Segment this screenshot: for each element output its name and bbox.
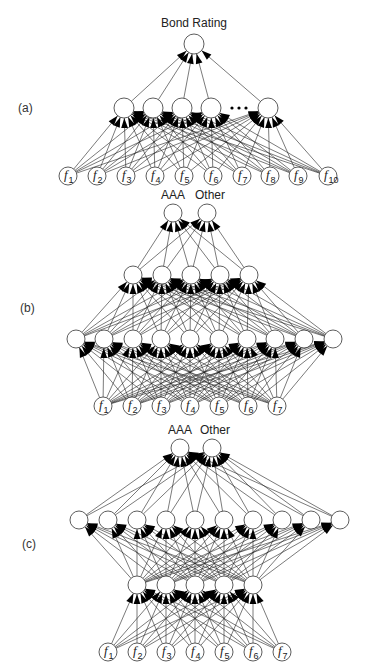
panel-label-b: (b)	[20, 301, 35, 315]
input-feature-subscript: 2	[138, 651, 143, 661]
panel-b-hidden-2-node-7	[238, 330, 256, 348]
arrowhead-icon	[250, 594, 257, 604]
panel-c-hidden-2-node-1	[128, 576, 146, 594]
panel-b-hidden-1-node-2	[153, 266, 171, 284]
arrowhead-icon	[155, 528, 162, 539]
panel-a-hidden-node-1	[114, 98, 134, 118]
ellipsis-dot	[237, 106, 240, 109]
input-feature-subscript: 6	[214, 175, 219, 185]
panel-c-hidden-1-node-6	[215, 511, 233, 529]
panel-c-hidden-1-node-10	[331, 511, 349, 529]
arrowhead-icon	[126, 593, 133, 604]
panel-c-hidden-1-node-5	[186, 511, 204, 529]
arrowheads	[79, 51, 332, 604]
connection-edge	[131, 51, 186, 102]
panel-b-output-node-1	[164, 204, 182, 222]
input-feature-subscript: 3	[127, 175, 132, 185]
input-feature-subscript: 6	[249, 405, 254, 415]
panel-b-hidden-1-node-5	[240, 266, 258, 284]
panel-c-output-node-2	[203, 439, 221, 457]
panel-c-hidden-1-node-8	[273, 511, 291, 529]
arrowhead-icon	[202, 51, 212, 60]
panel-b-hidden-2-node-1	[67, 330, 85, 348]
input-feature-subscript: 5	[220, 405, 225, 415]
panel-label-c: (c)	[22, 537, 36, 551]
ellipsis-dot	[230, 106, 233, 109]
panel-b-hidden-2-node-3	[124, 330, 142, 348]
connection-edge	[116, 589, 245, 648]
input-feature-subscript: 3	[167, 651, 172, 661]
panel-a-hidden-node-2	[143, 98, 163, 118]
input-feature-subscript: 9	[299, 175, 304, 185]
neural-network-diagram: f1f2f3f4f5f6f7f8f9f10Bond Rating(a)f1f2f…	[0, 0, 368, 670]
arrowhead-icon	[245, 284, 252, 294]
panel-c-hidden-1-node-4	[157, 511, 175, 529]
arrowhead-icon	[192, 529, 199, 539]
panel-b-hidden-2-node-9	[295, 330, 313, 348]
arrowhead-icon	[134, 594, 141, 604]
panel-c-hidden-1-node-1	[70, 511, 88, 529]
arrowhead-icon	[121, 118, 128, 128]
output-label: AAA	[168, 423, 192, 437]
arrowhead-icon	[192, 594, 199, 604]
arrowhead-icon	[228, 528, 235, 539]
connection-edge	[275, 115, 322, 169]
arrowhead-icon	[130, 284, 137, 294]
panel-c-hidden-2-node-3	[186, 576, 204, 594]
ellipsis-dot	[244, 106, 247, 109]
input-feature-subscript: 7	[283, 651, 288, 661]
arrowhead-icon	[212, 220, 220, 230]
panel-a-hidden-node-5	[258, 98, 278, 118]
input-feature-subscript: 5	[185, 175, 190, 185]
panel-c-hidden-1-node-9	[302, 511, 320, 529]
panel-a-hidden-node-3	[172, 98, 192, 118]
arrowhead-icon	[187, 348, 194, 358]
connection-edge	[143, 454, 205, 514]
panel-label-a: (a)	[18, 101, 33, 115]
arrowhead-icon	[265, 118, 272, 128]
panel-b-hidden-1-node-3	[182, 266, 200, 284]
input-feature-subscript: 4	[191, 405, 196, 415]
input-feature-subscript: 8	[271, 175, 276, 185]
arrowhead-icon	[257, 593, 264, 604]
input-feature-subscript: 2	[98, 175, 103, 185]
input-feature-subscript: 4	[196, 651, 201, 661]
arrowhead-icon	[221, 594, 228, 604]
panel-b-hidden-1-node-4	[211, 266, 229, 284]
panel-c-hidden-2-node-5	[244, 576, 262, 594]
panel-c-hidden-1-node-3	[128, 511, 146, 529]
panel-a-output-node-1	[184, 34, 204, 54]
panel-b-hidden-2-node-10	[324, 330, 342, 348]
input-feature-subscript: 7	[243, 175, 248, 185]
input-feature-subscript: 3	[162, 405, 167, 415]
output-label: Other	[195, 188, 225, 202]
arrowhead-icon	[196, 54, 203, 65]
connection-edge	[283, 346, 327, 399]
input-feature-subscript: 5	[225, 651, 230, 661]
arrowhead-icon	[187, 54, 194, 64]
panel-c-hidden-2-node-2	[157, 576, 175, 594]
connection-edge	[220, 452, 332, 515]
input-feature-subscript: 4	[156, 175, 161, 185]
input-feature-subscript: 10	[329, 175, 339, 185]
arrowhead-icon	[221, 529, 228, 539]
panel-b-hidden-2-node-4	[152, 330, 170, 348]
arrowhead-icon	[163, 529, 170, 539]
connection-edge	[114, 454, 173, 513]
input-feature-subscript: 2	[133, 405, 138, 415]
output-label: Other	[200, 423, 230, 437]
input-feature-subscript: 1	[104, 405, 109, 415]
panel-b-output-node-2	[198, 204, 216, 222]
panel-b-hidden-2-node-6	[210, 330, 228, 348]
panel-c-hidden-1-node-2	[99, 511, 117, 529]
arrowhead-icon	[163, 594, 170, 604]
panel-b-hidden-2-node-2	[95, 330, 113, 348]
arrowhead-icon	[160, 221, 168, 231]
connection-edge	[82, 282, 127, 333]
input-feature-subscript: 1	[69, 175, 74, 185]
connection-edge	[202, 51, 261, 102]
panel-b-hidden-1-node-1	[124, 266, 142, 284]
panel-c-hidden-1-node-7	[244, 511, 262, 529]
panel-c-hidden-2-node-4	[215, 576, 233, 594]
input-feature-subscript: 7	[278, 405, 283, 415]
